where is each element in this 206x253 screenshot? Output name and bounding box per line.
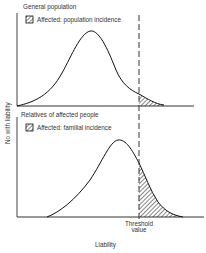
bottom-affected-tail (139, 163, 183, 217)
threshold-label-line2: value (124, 227, 154, 233)
threshold-label: Threshold value (124, 221, 154, 233)
bottom-distribution-curve (47, 140, 183, 217)
bottom-legend-swatch (26, 124, 33, 131)
y-axis-label: No with liability (4, 102, 11, 144)
top-legend-swatch (26, 16, 33, 23)
top-distribution-curve (17, 31, 164, 106)
bottom-panel-axes (17, 117, 204, 217)
top-affected-tail (130, 88, 164, 106)
top-panel-title: General population (23, 3, 76, 10)
top-legend-label: Affected: population incidence (37, 16, 121, 23)
top-panel-axes (17, 13, 194, 106)
bottom-panel-title: Relatives of affected people (21, 111, 99, 118)
bottom-legend-label: Affected: familial incidence (37, 124, 111, 131)
x-axis-label: Liability (95, 241, 116, 248)
